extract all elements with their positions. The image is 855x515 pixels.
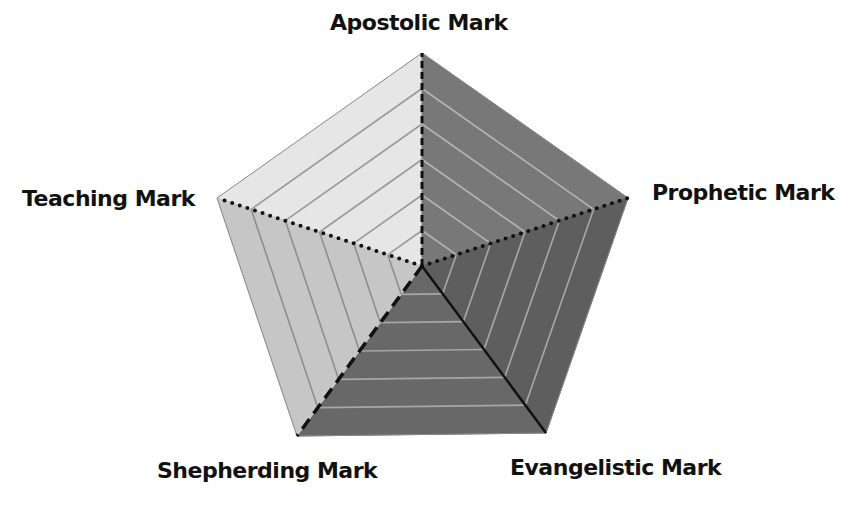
label-teaching-mark: Teaching Mark — [22, 186, 195, 211]
pentagon-diagram — [0, 0, 855, 515]
label-prophetic-mark: Prophetic Mark — [652, 180, 834, 205]
ring-line — [380, 322, 463, 323]
label-apostolic-mark: Apostolic Mark — [330, 10, 508, 35]
ring-line — [401, 294, 443, 295]
label-shepherding-mark: Shepherding Mark — [157, 458, 377, 483]
label-evangelistic-mark: Evangelistic Mark — [510, 455, 721, 480]
